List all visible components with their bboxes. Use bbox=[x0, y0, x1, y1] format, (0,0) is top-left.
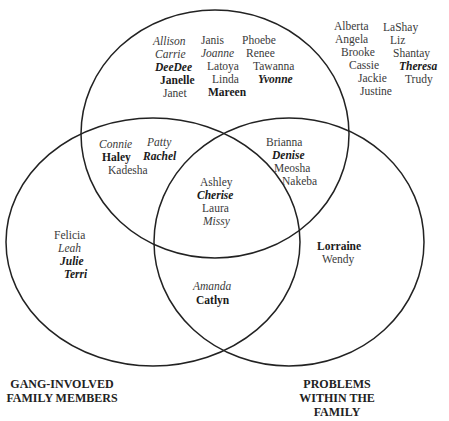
name-kadesha: Kadesha bbox=[108, 164, 148, 177]
name-laura: Laura bbox=[202, 202, 229, 215]
label-line: GANG-INVOLVED bbox=[0, 377, 124, 391]
name-julie: Julie bbox=[60, 255, 84, 268]
name-felicia: Felicia bbox=[54, 229, 85, 242]
name-missy: Missy bbox=[203, 215, 230, 228]
name-connie: Connie bbox=[99, 138, 132, 151]
name-shantay: Shantay bbox=[393, 47, 430, 60]
name-lashay: LaShay bbox=[383, 21, 418, 34]
name-patty: Patty bbox=[147, 136, 171, 149]
name-catlyn: Catlyn bbox=[196, 294, 229, 307]
name-haley: Haley bbox=[102, 151, 131, 164]
label-family-problems: PROBLEMS WITHIN THE FAMILY bbox=[292, 377, 382, 419]
name-theresa: Theresa bbox=[399, 60, 437, 73]
name-tawanna: Tawanna bbox=[253, 60, 294, 73]
name-wendy: Wendy bbox=[322, 253, 354, 266]
name-janis: Janis bbox=[201, 34, 224, 47]
name-yvonne: Yvonne bbox=[258, 73, 293, 86]
name-terri: Terri bbox=[64, 268, 87, 281]
label-line: FAMILY bbox=[292, 405, 382, 419]
name-brooke: Brooke bbox=[341, 46, 375, 59]
name-allison: Allison bbox=[153, 35, 186, 48]
name-rachel: Rachel bbox=[143, 150, 176, 163]
label-line: FAMILY MEMBERS bbox=[0, 391, 124, 405]
name-amanda: Amanda bbox=[193, 280, 231, 293]
name-ashley: Ashley bbox=[200, 176, 233, 189]
name-angela: Angela bbox=[335, 33, 368, 46]
name-janelle: Janelle bbox=[160, 74, 195, 87]
name-latoya: Latoya bbox=[207, 60, 239, 73]
name-justine: Justine bbox=[360, 85, 392, 98]
name-leah: Leah bbox=[58, 242, 81, 255]
name-renee: Renee bbox=[246, 47, 275, 60]
name-liz: Liz bbox=[390, 34, 405, 47]
label-line: PROBLEMS bbox=[292, 377, 382, 391]
name-phoebe: Phoebe bbox=[242, 34, 276, 47]
name-cherise: Cherise bbox=[197, 189, 233, 202]
label-line: WITHIN THE bbox=[292, 391, 382, 405]
name-mareen: Mareen bbox=[208, 86, 246, 99]
name-deedee: DeeDee bbox=[155, 61, 192, 74]
name-alberta: Alberta bbox=[334, 20, 368, 33]
name-lorraine: Lorraine bbox=[317, 240, 361, 253]
name-nakeba: Nakeba bbox=[282, 175, 317, 188]
name-meosha: Meosha bbox=[274, 162, 310, 175]
name-trudy: Trudy bbox=[405, 73, 433, 86]
name-joanne: Joanne bbox=[201, 47, 234, 60]
name-carrie: Carrie bbox=[155, 48, 186, 61]
name-linda: Linda bbox=[212, 73, 239, 86]
name-brianna: Brianna bbox=[266, 136, 302, 149]
name-denise: Denise bbox=[272, 149, 305, 162]
name-janet: Janet bbox=[163, 87, 187, 100]
name-jackie: Jackie bbox=[358, 72, 387, 85]
label-gang-involved: GANG-INVOLVED FAMILY MEMBERS bbox=[0, 377, 124, 405]
name-cassie: Cassie bbox=[349, 59, 379, 72]
